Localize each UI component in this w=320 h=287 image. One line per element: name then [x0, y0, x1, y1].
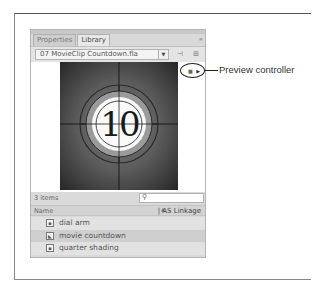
list-item[interactable]: ▪ dial arm — [31, 217, 205, 230]
panel-menu-icon[interactable]: ≡ — [199, 36, 202, 42]
list-item-label: dial arm — [59, 218, 90, 227]
column-header-as-linkage[interactable]: | AS Linkage — [158, 207, 201, 215]
callout-oval — [180, 63, 205, 78]
file-select-value: 07 MovieClip Countdown.fla — [40, 50, 138, 58]
library-column-header: Name ▲ | AS Linkage — [31, 205, 205, 216]
callout-label: Preview controller — [219, 64, 295, 75]
pin-icon[interactable]: ⊣ — [175, 50, 185, 59]
callout-leader-line — [205, 70, 218, 71]
library-item-list: ▪ dial arm ◣ movie countdown ▪ quarter s… — [31, 217, 205, 255]
list-item[interactable]: ▪ quarter shading — [31, 242, 205, 255]
graphic-symbol-icon: ▪ — [46, 244, 54, 252]
countdown-preview-image: 10 — [60, 62, 178, 190]
list-item[interactable]: ◣ movie countdown — [31, 230, 205, 243]
graphic-symbol-icon: ▪ — [46, 219, 54, 227]
library-search-input[interactable]: ⚲ — [139, 193, 204, 203]
tab-library[interactable]: Library — [77, 34, 109, 46]
movieclip-symbol-icon: ◣ — [46, 232, 54, 240]
library-status-row: 3 items ⚲ — [31, 192, 205, 205]
chevron-down-icon[interactable]: ▼ — [158, 50, 168, 59]
countdown-number: 10 — [60, 102, 178, 146]
symbol-preview: 10 ■ ▶ — [31, 62, 205, 192]
tab-properties[interactable]: Properties — [33, 34, 76, 46]
panel-tabs: Properties Library — [33, 34, 111, 46]
new-library-icon[interactable]: ⊞ — [191, 50, 201, 59]
list-item-label: quarter shading — [59, 243, 119, 252]
item-count: 3 items — [34, 194, 58, 202]
library-panel: ≡ Properties Library 07 MovieClip Countd… — [30, 29, 206, 258]
column-header-name[interactable]: Name — [34, 207, 53, 215]
list-item-label: movie countdown — [59, 231, 126, 240]
library-file-select[interactable]: 07 MovieClip Countdown.fla ▼ — [35, 49, 169, 60]
library-toolbar: 07 MovieClip Countdown.fla ▼ ⊣ ⊞ — [31, 46, 205, 62]
search-icon: ⚲ — [142, 193, 147, 201]
